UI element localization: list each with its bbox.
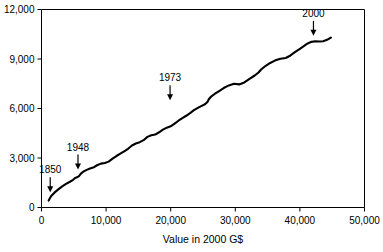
annotation-arrow-head [167,94,173,100]
x-tick-label: 30,000 [220,215,251,226]
x-tick-label: 50,000 [349,215,380,226]
chart-container: 03,0006,0009,00012,000010,00020,00030,00… [0,0,383,252]
annotation-label: 1948 [67,142,90,153]
y-tick-label: 0 [29,202,35,213]
annotation-arrow-head [47,186,53,192]
x-tick-label: 40,000 [285,215,316,226]
annotation-arrow-head [75,164,81,170]
x-axis-title: Value in 2000 G$ [163,233,244,245]
y-tick-label: 12,000 [4,4,35,15]
y-tick-label: 3,000 [9,153,34,164]
y-tick-label: 9,000 [9,54,34,65]
line-chart: 03,0006,0009,00012,000010,00020,00030,00… [0,0,383,252]
data-series-line [49,38,331,201]
annotation-arrow-head [310,30,316,36]
annotation-label: 1850 [39,164,62,175]
annotation-label: 2000 [302,8,325,19]
annotation-label: 1973 [159,72,182,83]
x-tick-label: 0 [39,215,45,226]
x-tick-label: 10,000 [91,215,122,226]
y-tick-label: 6,000 [9,103,34,114]
plot-frame [42,10,365,208]
x-tick-label: 20,000 [155,215,186,226]
